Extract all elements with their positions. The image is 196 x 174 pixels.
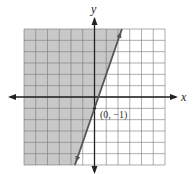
x-axis-arrow-left-icon (8, 94, 16, 100)
y-intercept-point (93, 107, 96, 110)
inequality-graph: x y (0, −1) (0, 0, 196, 174)
x-axis-label: x (180, 90, 187, 104)
x-axis-arrow-right-icon (170, 94, 178, 100)
intercept-label: (0, −1) (100, 109, 127, 121)
y-axis-arrow-up-icon (92, 17, 98, 25)
y-axis-label: y (90, 2, 97, 16)
y-axis-arrow-down-icon (92, 166, 98, 174)
line-arrow-down-icon (75, 156, 80, 162)
